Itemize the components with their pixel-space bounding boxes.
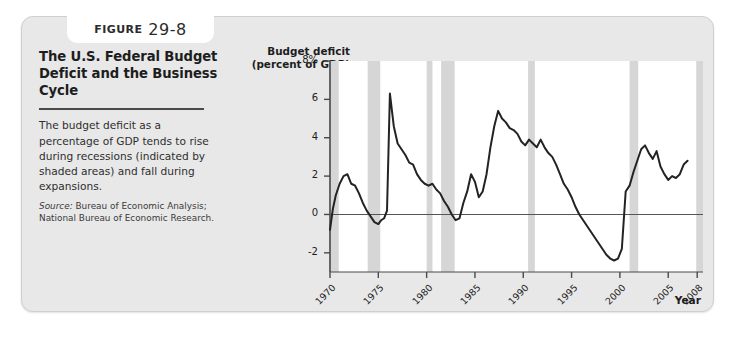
recession-band [368, 61, 381, 272]
figure-number-tab: FIGURE 29-8 [67, 15, 214, 43]
recession-band [427, 61, 433, 272]
figure-label: FIGURE [94, 23, 142, 36]
figure-screenshot: FIGURE 29-8 The U.S. Federal Budget Defi… [0, 0, 735, 345]
recession-band [696, 61, 703, 272]
y-tick-label: 8% [284, 54, 318, 65]
y-tick-label: -2 [284, 246, 318, 257]
figure-source: Source: Bureau of Economic Analysis; Nat… [39, 201, 219, 225]
y-tick-label: 4 [284, 131, 318, 142]
y-tick-label: 6 [284, 92, 318, 103]
chart-container: Budget deficit (percent of GDP) Year 8%6… [225, 39, 703, 307]
figure-title: The U.S. Federal Budget Deficit and the … [39, 48, 219, 99]
y-tick-label: 2 [284, 169, 318, 180]
source-label: Source: [39, 201, 73, 211]
figure-panel: FIGURE 29-8 The U.S. Federal Budget Defi… [21, 16, 714, 312]
y-tick-label: 0 [284, 207, 318, 218]
recession-band [528, 61, 535, 272]
caption-divider [39, 108, 204, 110]
caption-column: The U.S. Federal Budget Deficit and the … [39, 48, 219, 224]
recession-band [630, 61, 639, 272]
figure-number: 29-8 [148, 20, 186, 39]
recession-band [441, 61, 455, 272]
figure-description: The budget deficit as a percentage of GD… [39, 118, 219, 193]
